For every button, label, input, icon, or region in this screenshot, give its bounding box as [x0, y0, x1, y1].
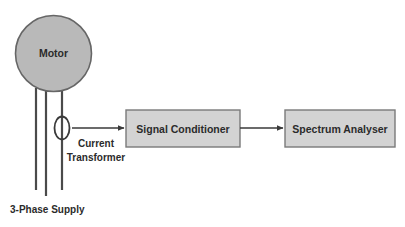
motor-label: Motor — [39, 47, 68, 59]
current-transformer-label: Current Transformer — [67, 138, 125, 163]
spectrum-analyser-node[interactable]: Spectrum Analyser — [285, 110, 395, 147]
three-phase-supply-label: 3-Phase Supply — [10, 204, 85, 215]
motor-node[interactable]: Motor — [16, 16, 92, 92]
current-transformer-label-line1: Current — [78, 138, 115, 149]
three-phase-supply-lines — [36, 88, 62, 196]
signal-conditioner-label: Signal Conditioner — [136, 123, 229, 135]
block-diagram: Motor Current Transformer Signal Conditi… — [0, 0, 405, 227]
signal-conditioner-node[interactable]: Signal Conditioner — [126, 110, 240, 147]
spectrum-analyser-label: Spectrum Analyser — [292, 123, 387, 135]
diagram-canvas: Motor Current Transformer Signal Conditi… — [0, 0, 405, 227]
current-transformer-label-line2: Transformer — [67, 152, 125, 163]
